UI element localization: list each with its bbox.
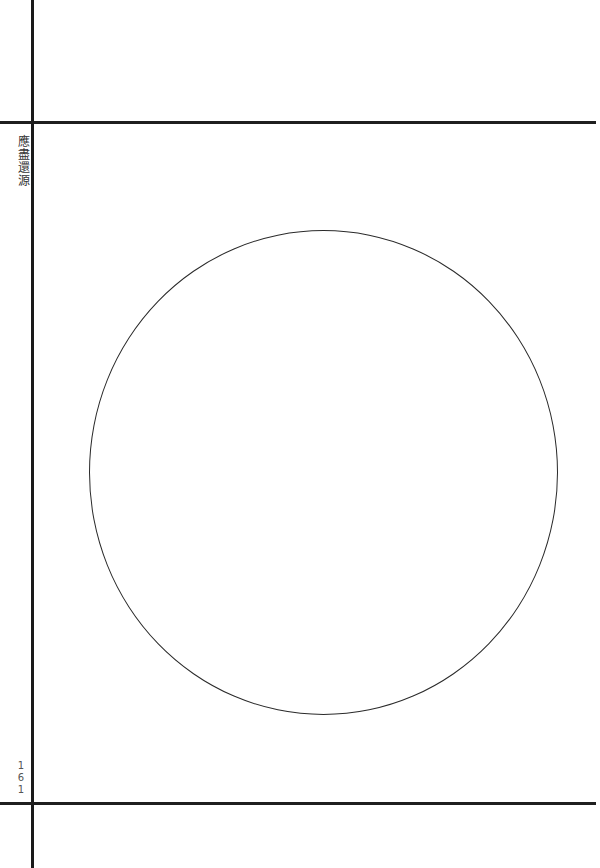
page-number-digit: 1: [15, 760, 27, 772]
page-number: 1 6 1: [15, 760, 27, 796]
page-number-digit: 1: [15, 784, 27, 796]
enso-circle-figure: [89, 230, 558, 715]
bottom-horizontal-rule: [0, 802, 596, 805]
page-number-digit: 6: [15, 772, 27, 784]
vertical-rule: [31, 0, 34, 868]
chapter-title: 應盡還源: [15, 135, 29, 187]
top-horizontal-rule: [0, 121, 596, 124]
